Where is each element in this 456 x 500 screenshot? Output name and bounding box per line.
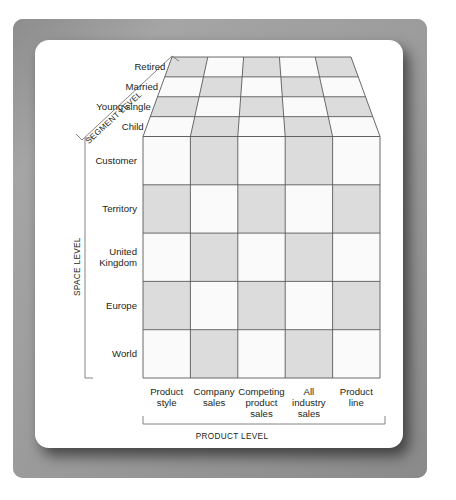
- front-face-cell: [333, 281, 380, 329]
- top-face-cell: [241, 77, 283, 97]
- top-face-cell: [203, 57, 243, 77]
- product-level-axis-title: PRODUCT LEVEL: [196, 432, 269, 441]
- front-face-cell: [190, 281, 237, 329]
- top-face-cell: [320, 77, 366, 97]
- front-face-cell: [143, 330, 190, 378]
- product-level-label-line: Product: [329, 386, 384, 397]
- top-face-cell: [279, 57, 319, 77]
- front-face-cell: [285, 330, 332, 378]
- top-face-cell: [158, 77, 204, 97]
- front-face-cell: [238, 185, 285, 233]
- space-level-label-line: Kingdom: [99, 257, 137, 268]
- space-level-bracket: [85, 138, 93, 378]
- product-level-label-line: sales: [281, 408, 336, 419]
- space-level-label-line: United: [99, 246, 137, 257]
- space-level-label-line: Europe: [106, 300, 137, 311]
- front-face-cell: [238, 330, 285, 378]
- front-face-cell: [285, 233, 332, 281]
- space-level-label-line: Customer: [95, 155, 137, 166]
- front-face-cell: [143, 281, 190, 329]
- top-face-cell: [239, 97, 284, 117]
- cube-diagram: [0, 0, 456, 500]
- front-face-cell: [238, 233, 285, 281]
- front-face-cell: [238, 137, 285, 185]
- space-level-label-line: Territory: [102, 203, 137, 214]
- product-level-label: Productline: [329, 386, 384, 408]
- front-face-cell: [190, 330, 237, 378]
- top-face-cell: [284, 117, 333, 137]
- top-face-cell: [242, 57, 281, 77]
- front-face-cell: [190, 137, 237, 185]
- top-face-cell: [199, 77, 242, 97]
- front-face-cell: [143, 185, 190, 233]
- front-face-cell: [333, 233, 380, 281]
- front-face-cell: [190, 233, 237, 281]
- front-face-cell: [285, 281, 332, 329]
- segment-level-label: Young single: [96, 101, 151, 112]
- segment-top-face: [143, 57, 380, 137]
- space-level-label: Customer: [95, 155, 137, 166]
- front-face-cell: [333, 137, 380, 185]
- top-face-cell: [282, 97, 328, 117]
- segment-level-label: Child: [122, 121, 144, 132]
- front-face-cell: [285, 137, 332, 185]
- front-face-cell: [285, 185, 332, 233]
- space-level-label-line: World: [112, 348, 137, 359]
- front-face-cell: [143, 137, 190, 185]
- space-level-axis-title: SPACE LEVEL: [73, 237, 82, 296]
- top-face-cell: [195, 97, 241, 117]
- front-face-cell: [333, 330, 380, 378]
- figure-canvas: SEGMENT LEVEL RetiredMarriedYoung single…: [0, 0, 456, 500]
- space-product-front-face: [143, 137, 380, 379]
- segment-level-label: Retired: [134, 61, 165, 72]
- space-level-label: Territory: [102, 203, 137, 214]
- top-face-cell: [328, 117, 380, 137]
- front-face-cell: [333, 185, 380, 233]
- front-face-cell: [238, 281, 285, 329]
- top-face-cell: [190, 117, 239, 137]
- space-level-label: World: [112, 348, 137, 359]
- top-face-cell: [150, 97, 199, 117]
- front-face-cell: [143, 233, 190, 281]
- top-face-cell: [143, 117, 195, 137]
- space-level-label: Europe: [106, 300, 137, 311]
- top-face-cell: [238, 117, 285, 137]
- segment-level-label: Married: [126, 81, 159, 92]
- front-face-cell: [190, 185, 237, 233]
- top-face-cell: [324, 97, 373, 117]
- top-face-cell: [281, 77, 324, 97]
- space-level-label: UnitedKingdom: [99, 246, 137, 268]
- product-level-label-line: line: [329, 397, 384, 408]
